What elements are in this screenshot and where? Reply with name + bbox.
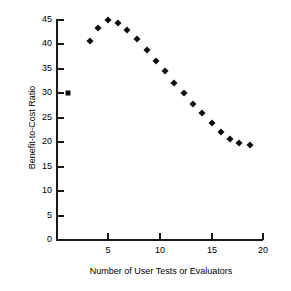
y-tick-45 <box>58 19 64 21</box>
data-point <box>217 128 224 135</box>
data-point <box>180 89 187 96</box>
x-axis-title: Number of User Tests or Evaluators <box>46 266 276 277</box>
data-point <box>227 136 234 143</box>
y-tick-25 <box>58 117 64 119</box>
y-tick-label-5: 5 <box>30 211 52 220</box>
y-tick-label-45: 45 <box>30 15 52 24</box>
data-point <box>208 120 215 127</box>
data-point <box>162 68 169 75</box>
data-point <box>246 142 253 149</box>
data-point <box>95 24 102 31</box>
x-tick-10 <box>159 233 161 240</box>
data-point <box>124 26 131 33</box>
y-tick-10 <box>58 190 64 192</box>
y-tick-40 <box>58 43 64 45</box>
x-tick-5 <box>107 233 109 240</box>
y-tick-20 <box>58 141 64 143</box>
x-tick-label-5: 5 <box>98 246 118 255</box>
y-axis-title: Benefit-to-Cost Ratio <box>27 48 38 208</box>
y-tick-35 <box>58 68 64 70</box>
x-tick-15 <box>211 233 213 240</box>
data-point <box>66 91 71 96</box>
data-point <box>236 140 243 147</box>
data-point <box>189 100 196 107</box>
data-point <box>104 17 111 24</box>
y-tick-30 <box>58 92 64 94</box>
x-tick-label-15: 15 <box>202 246 222 255</box>
y-tick-15 <box>58 166 64 168</box>
x-tick-20 <box>262 233 264 240</box>
x-tick-label-20: 20 <box>253 246 273 255</box>
data-point <box>199 110 206 117</box>
data-point <box>143 46 150 53</box>
y-tick-5 <box>58 215 64 217</box>
data-point <box>171 79 178 86</box>
chart-container: 45 40 35 30 25 20 15 10 5 0 5 10 15 20 N… <box>0 0 291 291</box>
y-tick-label-0: 0 <box>30 235 52 244</box>
data-point <box>134 36 141 43</box>
data-point <box>86 37 93 44</box>
x-tick-label-10: 10 <box>150 246 170 255</box>
y-axis-line <box>56 19 58 241</box>
data-point <box>152 57 159 64</box>
data-point <box>114 19 121 26</box>
